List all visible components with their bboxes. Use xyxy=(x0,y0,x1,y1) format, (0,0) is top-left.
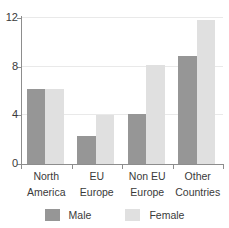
category-label-line-2: Countries xyxy=(173,184,224,200)
chart-legend: MaleFemale xyxy=(0,205,229,225)
category-label-line-1: EU xyxy=(89,170,104,182)
bar-male xyxy=(77,136,96,164)
category-label-line-1: Other xyxy=(185,170,211,182)
category-label-line-1: Non EU xyxy=(129,170,166,182)
bar-male xyxy=(128,114,147,164)
category-label-line-1: North xyxy=(33,170,59,182)
y-axis-tick-label: 8 xyxy=(12,60,18,73)
bar-group xyxy=(128,18,165,164)
legend-swatch-male xyxy=(45,209,60,221)
bar-male xyxy=(27,89,46,164)
legend-label: Male xyxy=(69,208,92,222)
bar-female xyxy=(96,115,115,164)
x-axis-category-label: EUEurope xyxy=(72,168,123,200)
category-label-line-2: Europe xyxy=(72,184,123,200)
bar-chart: 04812 NorthAmericaEUEuropeNon EUEuropeOt… xyxy=(0,0,229,228)
bar-group xyxy=(77,18,114,164)
bar-female xyxy=(146,65,165,164)
y-axis-tick-label: 4 xyxy=(12,108,18,121)
category-label-line-2: America xyxy=(21,184,72,200)
y-axis-tick: 8 xyxy=(21,67,22,68)
bar-female xyxy=(197,20,216,164)
legend-item[interactable]: Male xyxy=(45,208,92,222)
x-axis-category-label: OtherCountries xyxy=(173,168,224,200)
plot-area xyxy=(21,18,223,164)
bar-group xyxy=(27,18,64,164)
bar-group xyxy=(178,18,215,164)
bar-female xyxy=(45,89,64,164)
x-axis-category-labels: NorthAmericaEUEuropeNon EUEuropeOtherCou… xyxy=(21,168,224,202)
legend-item[interactable]: Female xyxy=(125,208,184,222)
y-axis-tick: 12 xyxy=(21,18,22,19)
legend-label: Female xyxy=(149,208,184,222)
y-axis-line xyxy=(21,16,22,166)
legend-swatch-female xyxy=(125,209,140,221)
x-axis-category-label: NorthAmerica xyxy=(21,168,72,200)
x-axis-category-label: Non EUEurope xyxy=(122,168,173,200)
y-axis-tick: 4 xyxy=(21,115,22,116)
y-axis-tick-label: 0 xyxy=(12,157,18,170)
y-axis-tick-label: 12 xyxy=(6,11,18,24)
category-label-line-2: Europe xyxy=(122,184,173,200)
bar-male xyxy=(178,56,197,164)
